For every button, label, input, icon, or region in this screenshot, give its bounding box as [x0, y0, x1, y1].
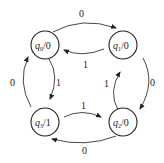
edge-q3-q0 — [23, 57, 31, 107]
edge-label-q3-q2: 1 — [81, 100, 86, 111]
state-q3: q3/1 — [31, 108, 59, 136]
state-q0: q0/0 — [31, 31, 59, 59]
edge-label-q0-q1: 0 — [79, 8, 84, 19]
state-q1: q1/0 — [109, 31, 137, 59]
svg-text:q1/0: q1/0 — [113, 40, 129, 52]
edge-q1-q0 — [64, 49, 104, 54]
edge-label-q1-q0: 1 — [83, 59, 88, 70]
edge-q1-q2 — [140, 58, 149, 109]
edge-label-q0-q3: 1 — [56, 77, 61, 88]
edge-q0-q3 — [49, 59, 55, 99]
edge-q2-q1 — [113, 72, 120, 110]
edge-q3-q2 — [64, 113, 101, 118]
edge-q2-q3 — [52, 136, 116, 143]
state-diagram: 0 1 0 1 0 1 0 1 q0/0 q1/0 q2/0 q3/1 — [0, 0, 164, 163]
svg-text:q2/0: q2/0 — [113, 117, 129, 129]
edge-label-q1-q2: 0 — [150, 77, 155, 88]
edge-q0-q1 — [53, 23, 116, 32]
svg-text:q0/0: q0/0 — [35, 40, 51, 52]
edge-label-q2-q3: 0 — [82, 145, 87, 156]
state-q2: q2/0 — [109, 108, 137, 136]
edge-label-q3-q0: 0 — [10, 77, 15, 88]
svg-text:q3/1: q3/1 — [35, 117, 51, 129]
edge-label-q2-q1: 1 — [104, 78, 109, 89]
